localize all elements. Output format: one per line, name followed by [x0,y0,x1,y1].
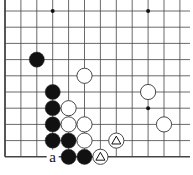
black-stone [45,117,60,132]
point-label-a: a [49,149,56,165]
black-stone [45,133,60,148]
star-point [146,106,150,110]
black-stone [45,101,60,116]
white-stone [77,117,92,132]
black-stone [61,133,76,148]
white-stone [61,101,76,116]
star-point [146,9,150,13]
white-stone [156,117,171,132]
white-stone [77,68,92,83]
go-board-diagram: a [0,0,193,175]
black-stone [29,52,44,67]
white-stone [61,117,76,132]
white-stone [141,84,156,99]
star-point [51,9,55,13]
black-stone [45,84,60,99]
black-stone [77,149,92,164]
white-stone [77,133,92,148]
black-stone [61,149,76,164]
